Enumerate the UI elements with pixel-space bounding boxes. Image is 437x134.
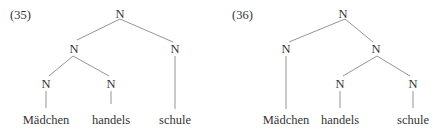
word-maedchen: Mädchen [263, 114, 310, 127]
node-left: N [69, 43, 78, 56]
node-left-right: N [106, 78, 115, 91]
node-right: N [371, 43, 380, 56]
node-root: N [115, 8, 124, 21]
node-left: N [281, 43, 290, 56]
node-right: N [170, 43, 179, 56]
example-number: (35) [10, 9, 31, 22]
word-handels: handels [92, 114, 130, 127]
node-right-right: N [408, 78, 417, 91]
node-left-left: N [41, 78, 50, 91]
word-handels: handels [321, 114, 359, 127]
word-schule: schule [159, 114, 191, 127]
word-maedchen: Mädchen [23, 114, 70, 127]
node-root: N [338, 8, 347, 21]
node-right-left: N [335, 78, 344, 91]
example-number: (36) [232, 9, 253, 22]
word-schule: schule [397, 114, 429, 127]
